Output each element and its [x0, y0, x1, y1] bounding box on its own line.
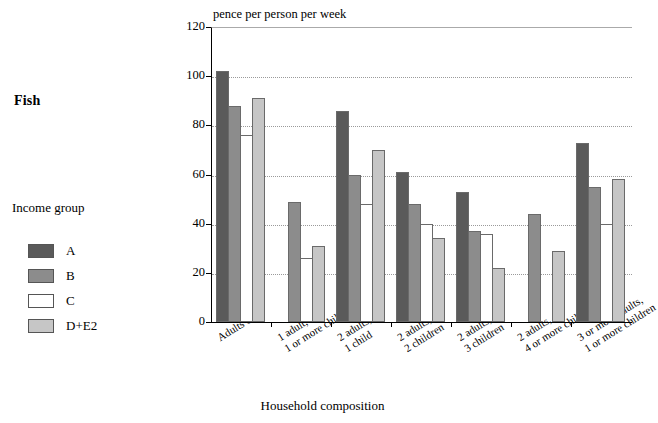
y-tick-mark [206, 322, 211, 323]
y-tick-mark [206, 27, 211, 28]
legend-item-label: C [66, 294, 75, 307]
bar-c-group-1 [300, 258, 313, 322]
bar-d-e2-group-5 [552, 251, 565, 322]
legend-item-b: B [28, 263, 158, 288]
x-axis-group-tick [571, 322, 572, 327]
bar-c-group-3 [420, 224, 433, 322]
x-axis-group-tick [391, 322, 392, 327]
bar-a-group-4 [456, 192, 469, 322]
bar-d-e2-group-0 [252, 98, 265, 322]
bar-a-group-2 [336, 111, 349, 322]
y-tick-label: 100 [179, 69, 205, 82]
x-axis-title: Household composition [0, 398, 645, 414]
y-tick-label: 40 [179, 217, 205, 230]
bar-b-group-5 [528, 214, 541, 322]
bar-c-group-4 [480, 234, 493, 323]
legend-item-label: D+E2 [66, 319, 97, 332]
food-category-label: Fish [14, 93, 40, 109]
legend-item-d-e2: D+E2 [28, 313, 158, 338]
bar-d-e2-group-4 [492, 268, 505, 322]
bar-b-group-6 [588, 187, 601, 322]
x-axis-group-tick [511, 322, 512, 327]
y-axis-ticks: 020406080100120 [175, 27, 205, 322]
bar-a-group-6 [576, 143, 589, 322]
legend-item-c: C [28, 288, 158, 313]
y-tick-mark [206, 175, 211, 176]
bar-c-group-0 [240, 135, 253, 322]
y-tick-label: 20 [179, 266, 205, 279]
legend-swatch-icon [28, 269, 54, 283]
bar-b-group-2 [348, 175, 361, 323]
y-tick-label: 80 [179, 118, 205, 131]
bar-d-e2-group-2 [372, 150, 385, 322]
bar-c-group-6 [600, 224, 613, 322]
y-tick-mark [206, 273, 211, 274]
bar-b-group-1 [288, 202, 301, 322]
bars-layer [211, 27, 632, 322]
bar-c-group-2 [360, 204, 373, 322]
legend-swatch-icon [28, 244, 54, 258]
bar-d-e2-group-3 [432, 238, 445, 322]
legend-item-label: A [66, 244, 75, 257]
legend-item-a: A [28, 238, 158, 263]
bar-d-e2-group-1 [312, 246, 325, 322]
y-tick-mark [206, 76, 211, 77]
y-tick-mark [206, 224, 211, 225]
legend-item-label: B [66, 269, 75, 282]
y-tick-mark [206, 125, 211, 126]
y-tick-label: 60 [179, 168, 205, 181]
legend-swatch-icon [28, 319, 54, 333]
legend-title: Income group [12, 200, 85, 216]
y-tick-label: 0 [179, 315, 205, 328]
bar-a-group-3 [396, 172, 409, 322]
x-axis-group-tick [271, 322, 272, 327]
bar-b-group-0 [228, 106, 241, 322]
y-tick-label: 120 [179, 20, 205, 33]
bar-d-e2-group-6 [612, 179, 625, 322]
legend-swatch-icon [28, 294, 54, 308]
x-axis-group-tick [331, 322, 332, 327]
legend: ABCD+E2 [28, 238, 158, 338]
bar-b-group-3 [408, 204, 421, 322]
bar-b-group-4 [468, 231, 481, 322]
x-axis-group-tick [451, 322, 452, 327]
bar-a-group-0 [216, 71, 229, 322]
y-axis-unit-label: pence per person per week [213, 7, 346, 22]
